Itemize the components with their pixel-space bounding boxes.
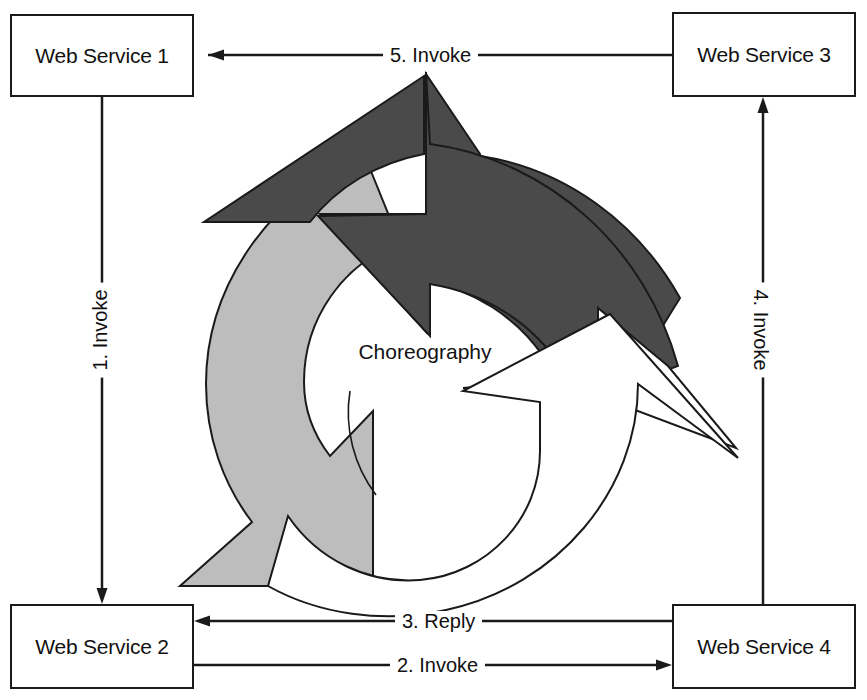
- service-box-web-service-4[interactable]: Web Service 4: [672, 604, 856, 689]
- arrowhead-up-ws3: [758, 97, 769, 113]
- edge-label-4-invoke: 4. Invoke: [751, 282, 771, 377]
- edge-label-3-reply: 3. Reply: [395, 611, 482, 631]
- choreography-label: Choreography: [325, 340, 525, 364]
- service-label-web-service-4: Web Service 4: [697, 635, 831, 659]
- wheel-segment-dark-arrow: [204, 76, 424, 222]
- service-label-web-service-3: Web Service 3: [697, 43, 831, 67]
- arrowhead-down-ws2: [97, 588, 108, 604]
- service-box-web-service-2[interactable]: Web Service 2: [10, 604, 194, 689]
- service-box-web-service-3[interactable]: Web Service 3: [672, 12, 856, 97]
- arrowhead-left-ws1: [208, 50, 224, 61]
- edge-label-2-invoke: 2. Invoke: [390, 655, 485, 675]
- service-label-web-service-1: Web Service 1: [35, 44, 169, 68]
- diagram-canvas: Choreography Web Service 1 Web Service 3…: [0, 0, 867, 700]
- service-box-web-service-1[interactable]: Web Service 1: [10, 14, 194, 97]
- edge-label-1-invoke: 1. Invoke: [90, 282, 110, 377]
- arrowhead-right-ws4: [656, 660, 672, 671]
- service-label-web-service-2: Web Service 2: [35, 635, 169, 659]
- edge-label-5-invoke: 5. Invoke: [383, 45, 478, 65]
